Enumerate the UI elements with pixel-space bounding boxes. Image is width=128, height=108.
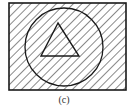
figure-caption: (c) [0, 94, 128, 106]
universe-rectangle-fill [9, 3, 126, 90]
venn-diagram [0, 0, 128, 108]
